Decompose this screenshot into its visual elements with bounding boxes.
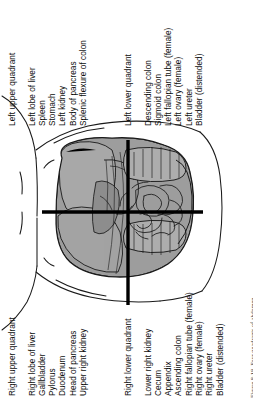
quadrant-left-lower-quadrant: Left lower quadrant Descending colon Sig… [124, 28, 205, 126]
quadrant-title-left-lower: Left lower quadrant [124, 28, 135, 126]
organ-item: Left kidney [58, 40, 68, 126]
organ-item: Left lobe of liver [28, 40, 38, 126]
organ-item: Right fallopian tube (female) [185, 292, 195, 396]
organ-item: Cecum [154, 292, 164, 396]
quadrant-left-upper-quadrant: Left upper quadrant Left lobe of liver S… [8, 40, 89, 126]
organ-item: Left ureter [185, 28, 195, 126]
quadrant-right-upper-quadrant: Right upper quadrant Right lobe of liver… [8, 317, 89, 396]
figure-caption: Figure 8-18. Four quadrants of abdomen. [249, 296, 253, 398]
quadrant-title-right-lower: Right lower quadrant [124, 292, 135, 396]
abdominal-viscera [56, 138, 194, 278]
organ-item: Pylorus [48, 317, 58, 396]
organ-item: Left ovary (female) [174, 28, 184, 126]
organ-item: Splenic flexure of colon [79, 40, 89, 126]
organ-item: Ascending colon [174, 292, 184, 396]
organ-item: Spleen [38, 40, 48, 126]
organ-item: Body of pancreas [69, 40, 79, 126]
organ-item: Appendix [164, 292, 174, 396]
quadrant-title-right-upper: Right upper quadrant [8, 317, 19, 396]
organ-list-right-upper: Right lobe of liver Gallbladder Pylorus … [28, 317, 90, 396]
quadrant-title-left-upper: Left upper quadrant [8, 40, 19, 126]
organ-list-left-upper: Left lobe of liver Spleen Stomach Left k… [28, 40, 90, 126]
quadrant-right-lower-quadrant: Right lower quadrant Lower right kidney … [124, 292, 226, 396]
organ-item: Upper right kidney [79, 317, 89, 396]
organ-item: Right lobe of liver [28, 317, 38, 396]
organ-item: Right ureter [205, 292, 215, 396]
organ-item: Stomach [48, 40, 58, 126]
organ-list-right-lower: Lower right kidney Cecum Appendix Ascend… [144, 292, 226, 396]
organ-item: Left fallopian tube (female) [164, 28, 174, 126]
organ-item: Sigmoid colon [154, 28, 164, 126]
organ-item: Lower right kidney [144, 292, 154, 396]
organ-item: Right ovary (female) [195, 292, 205, 396]
organ-item: Duodenum [58, 317, 68, 396]
figure-four-quadrants-of-abdomen: Left upper quadrant Left lobe of liver S… [0, 0, 253, 402]
viscera-outline [56, 138, 194, 278]
organ-list-left-lower: Descending colon Sigmoid colon Left fall… [144, 28, 206, 126]
organ-item: Descending colon [144, 28, 154, 126]
organ-item: Bladder (distended) [195, 28, 205, 126]
organ-item: Gallbladder [38, 317, 48, 396]
organ-item: Head of pancreas [69, 317, 79, 396]
organ-item: Bladder (distended) [216, 292, 226, 396]
